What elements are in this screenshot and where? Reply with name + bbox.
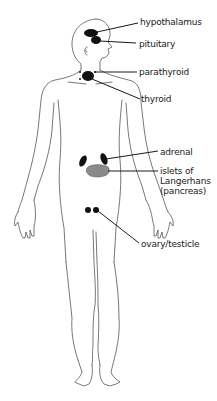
leader-hypothalamus	[97, 23, 138, 32]
leader-thyroid	[92, 79, 140, 99]
parathyroid-dot	[79, 78, 81, 80]
label-ovary-testicle: ovary/testicle	[141, 239, 199, 249]
head-outline	[72, 19, 96, 70]
left-hand	[15, 200, 36, 238]
right-leg-outer	[100, 262, 120, 386]
label-thyroid: thyroid	[141, 94, 171, 104]
leader-pituitary	[100, 41, 136, 43]
pituitary-gland	[91, 36, 101, 44]
left-shoulder	[18, 70, 81, 212]
right-leg-inner	[96, 232, 100, 365]
left-leg-outer	[66, 262, 92, 386]
leader-lines	[92, 23, 158, 243]
label-hypothalamus: hypothalamus	[140, 17, 202, 27]
label-parathyroid: parathyroid	[139, 67, 189, 77]
leader-ovary-testicle	[98, 211, 139, 243]
body-outline-figure	[0, 0, 217, 401]
left-leg-inner	[92, 230, 95, 365]
label-adrenal: adrenal	[160, 147, 193, 157]
hypothalamus-gland	[84, 29, 98, 37]
label-pituitary: pituitary	[139, 39, 175, 49]
glands	[78, 29, 110, 213]
ovary-right	[93, 207, 99, 213]
label-islets-of-langerhans: islets of Langerhans (pancreas)	[160, 166, 211, 196]
right-shoulder	[100, 70, 168, 212]
pancreas-gland	[86, 165, 109, 177]
right-torso	[114, 100, 122, 262]
left-torso	[58, 100, 66, 262]
adrenal-left	[78, 154, 89, 168]
right-hand	[146, 200, 173, 238]
left-arm-inner	[34, 103, 54, 200]
ovary-left	[85, 207, 91, 213]
face-outline	[96, 19, 112, 70]
parathyroid-dot	[79, 71, 81, 73]
